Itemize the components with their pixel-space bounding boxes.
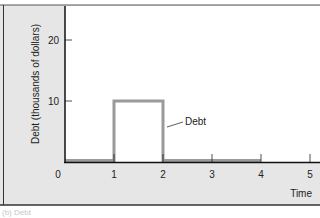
debt-annotation-label: Debt [185, 116, 206, 127]
x-tick-label: 3 [209, 169, 215, 180]
y-axis-label: Debt (thousands of dollars) [30, 24, 41, 144]
x-tick-label: 5 [307, 169, 313, 180]
y-tick-label: 10 [48, 96, 60, 107]
x-tick-label: 4 [258, 169, 264, 180]
debt-chart: 012345 1020 Debt Debt (thousands of doll… [0, 0, 320, 218]
figure-caption: (b) Debt [2, 208, 31, 217]
plot-area [65, 6, 320, 162]
x-tick-label: 1 [111, 169, 117, 180]
y-tick-label: 20 [48, 35, 60, 46]
x-axis-label: Time [290, 188, 312, 199]
x-tick-label: 0 [55, 169, 61, 180]
x-tick-label: 2 [160, 169, 166, 180]
